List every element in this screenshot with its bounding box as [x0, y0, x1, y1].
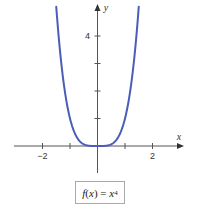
x-tick-label-neg2: −2 — [37, 151, 47, 161]
formula-exponent: 4 — [114, 189, 118, 197]
x-axis-arrow-icon — [177, 143, 184, 149]
function-label-box: f(x) = x4 — [75, 181, 125, 204]
x-tick-label-2: 2 — [150, 151, 155, 161]
formula-equals: ) = — [94, 187, 109, 199]
x-axis-label: x — [176, 131, 182, 142]
y-tick-label-4: 4 — [85, 31, 90, 41]
y-axis-label: y — [103, 2, 109, 13]
y-axis-arrow-icon — [95, 4, 101, 11]
